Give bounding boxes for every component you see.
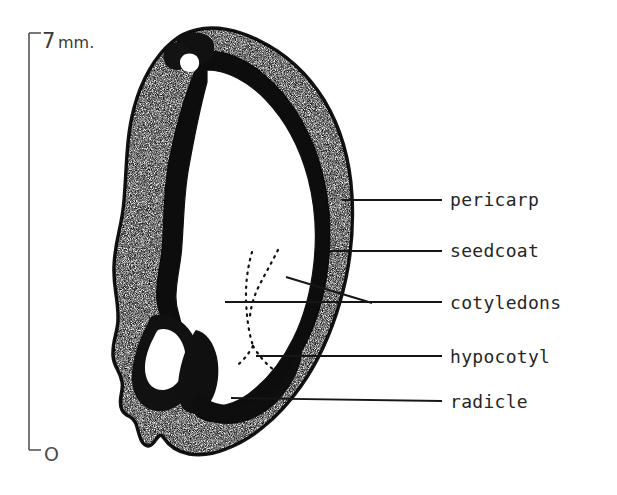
scale-bar-bottom-label: O [44, 443, 59, 465]
callout-label-cotyledons: cotyledons [450, 292, 561, 313]
seed-anatomy-figure: 7 mm. O [0, 0, 617, 495]
callout-label-seedcoat: seedcoat [450, 240, 539, 261]
scale-bar: 7 mm. O [29, 29, 94, 465]
callout-label-radicle: radicle [450, 391, 528, 412]
callout-label-pericarp: pericarp [450, 189, 539, 210]
callout-labels: pericarp seedcoat cotyledons hypocotyl r… [450, 189, 561, 412]
callout-label-hypocotyl: hypocotyl [450, 346, 550, 367]
scale-bar-top-unit: mm. [58, 33, 94, 52]
scale-bar-top-number: 7 [42, 29, 55, 53]
